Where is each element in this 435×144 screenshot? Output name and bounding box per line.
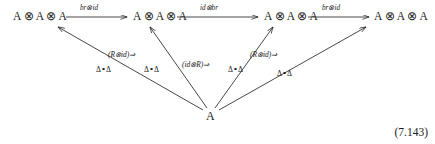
arrow-label-br-id-2: br⊗id (322, 5, 340, 12)
two-cell-label-r-id-right: (R⊗id)⇒ (250, 51, 277, 58)
diag-label-delta-2: Δ∘Δ (144, 66, 159, 74)
arrow-label-id-br: id⊗br (200, 5, 218, 12)
two-cell-label-r-id-left: (R⊗id)⇒ (108, 51, 135, 58)
node-top-0: A ⊗ A ⊗ A (13, 11, 67, 23)
two-cell-label-id-r-middle: (id⊗R)⇒ (182, 61, 209, 68)
node-bottom-a: A (206, 110, 215, 122)
equation-number: (7.143) (394, 126, 428, 138)
node-top-2: A ⊗ A ⊗ A (264, 11, 318, 23)
figure-canvas: A ⊗ A ⊗ A A ⊗ A ⊗ A A ⊗ A ⊗ A A ⊗ A ⊗ A … (0, 0, 435, 144)
arrow-label-br-id-1: br⊗id (80, 5, 98, 12)
diag-label-delta-3: Δ∘Δ (228, 66, 243, 74)
node-top-3: A ⊗ A ⊗ A (374, 11, 428, 23)
diag-label-delta-1: Δ∘Δ (96, 66, 111, 74)
node-top-1: A ⊗ A ⊗ A (133, 11, 187, 23)
diag-label-delta-4: Δ∘Δ (277, 70, 292, 78)
